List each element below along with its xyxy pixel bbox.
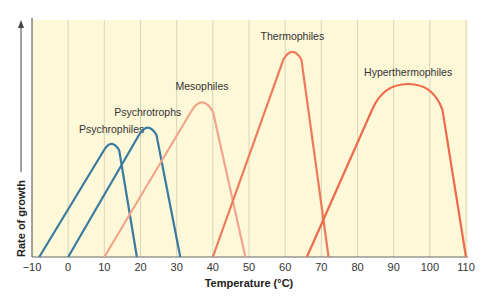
x-tick-label: 50	[243, 261, 255, 273]
x-tick-label: 40	[207, 261, 219, 273]
curve-label-thermophiles: Thermophiles	[261, 30, 325, 42]
x-tick-label: −10	[23, 261, 42, 273]
curve-label-mesophiles: Mesophiles	[175, 80, 228, 92]
plot-background	[32, 20, 468, 257]
x-tick-label: 80	[351, 261, 363, 273]
growth-rate-chart: −100102030405060708090100110Temperature …	[0, 0, 486, 306]
x-tick-label: 20	[134, 261, 146, 273]
y-axis-label: Rate of growth	[15, 180, 27, 257]
x-tick-label: 0	[65, 261, 71, 273]
curve-label-psychrotrophs: Psychrotrophs	[114, 106, 181, 118]
x-tick-label: 90	[388, 261, 400, 273]
x-axis-label: Temperature (°C)	[205, 277, 294, 289]
curve-label-psychrophiles: Psychrophiles	[79, 123, 144, 135]
curve-label-hyperthermophiles: Hyperthermophiles	[364, 66, 452, 78]
x-tick-label: 60	[279, 261, 291, 273]
y-axis-arrow-head	[18, 20, 24, 28]
x-tick-label: 10	[98, 261, 110, 273]
x-tick-label: 110	[457, 261, 475, 273]
x-tick-label: 100	[421, 261, 439, 273]
x-tick-label: 70	[315, 261, 327, 273]
x-tick-label: 30	[171, 261, 183, 273]
